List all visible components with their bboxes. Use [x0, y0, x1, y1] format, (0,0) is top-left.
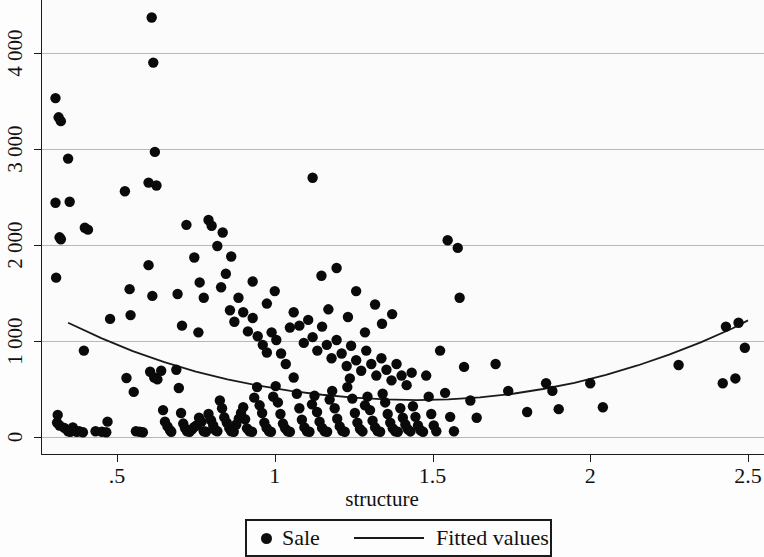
data-point	[740, 343, 750, 353]
data-point	[172, 289, 182, 299]
data-point	[271, 335, 281, 345]
data-point	[292, 389, 302, 399]
data-point	[63, 153, 73, 163]
data-point	[327, 386, 337, 396]
data-point	[276, 348, 286, 358]
legend-label-sale: Sale	[282, 525, 320, 551]
data-point	[370, 299, 380, 309]
data-point	[270, 286, 280, 296]
data-point	[226, 251, 236, 261]
data-point	[233, 293, 243, 303]
data-point	[156, 366, 166, 376]
data-point	[83, 224, 93, 234]
y-tick-mark	[34, 341, 42, 342]
data-point	[309, 391, 319, 401]
data-point	[440, 388, 450, 398]
data-point	[322, 427, 332, 437]
data-point	[196, 416, 206, 426]
data-point	[78, 427, 88, 437]
data-point	[217, 403, 227, 413]
data-point	[329, 403, 339, 413]
data-point	[243, 326, 253, 336]
data-point	[490, 359, 500, 369]
data-point	[346, 341, 356, 351]
data-point	[177, 320, 187, 330]
data-point	[733, 318, 743, 328]
data-point	[171, 365, 181, 375]
data-point	[307, 173, 317, 183]
data-point	[216, 282, 226, 292]
sale-marker-icon	[261, 533, 272, 544]
x-tick-label: 2.5	[734, 463, 762, 489]
data-point	[554, 404, 564, 414]
data-point	[303, 315, 313, 325]
y-axis-line	[41, 0, 42, 455]
sale-data-points	[50, 12, 750, 437]
data-point	[50, 93, 60, 103]
data-point	[158, 405, 168, 415]
data-point	[181, 220, 191, 230]
plot-canvas	[41, 0, 764, 455]
data-point	[371, 370, 381, 380]
data-point	[238, 307, 248, 317]
data-point	[718, 378, 728, 388]
x-axis-line	[41, 454, 764, 455]
data-point	[212, 426, 222, 436]
data-point	[64, 197, 74, 207]
x-tick-label: 1	[269, 463, 280, 489]
x-tick-mark	[433, 455, 434, 462]
data-point	[391, 359, 401, 369]
data-point	[151, 180, 161, 190]
data-point	[312, 345, 322, 355]
x-tick-label: 2	[585, 463, 596, 489]
data-point	[393, 427, 403, 437]
data-point	[347, 393, 357, 403]
data-point	[387, 309, 397, 319]
data-point	[454, 293, 464, 303]
data-point	[435, 345, 445, 355]
data-point	[275, 409, 285, 419]
data-point	[271, 381, 281, 391]
data-point	[105, 314, 115, 324]
data-point	[288, 307, 298, 317]
data-point	[449, 426, 459, 436]
y-tick-label-text: 0	[3, 432, 28, 443]
data-point	[247, 427, 257, 437]
y-tick-label-text: 1 000	[3, 317, 28, 364]
data-point	[396, 370, 406, 380]
x-tick-label: .5	[109, 463, 126, 489]
data-point	[362, 391, 372, 401]
data-point	[345, 373, 355, 383]
data-point	[408, 401, 418, 411]
data-point	[356, 366, 366, 376]
data-point	[547, 386, 557, 396]
data-point	[357, 426, 367, 436]
legend-entry-fitted-values: Fitted values	[354, 525, 549, 551]
data-point	[288, 372, 298, 382]
data-point	[229, 317, 239, 327]
scatter-plot-figure: 01 0002 0003 0004 000 .511.522.5 structu…	[0, 0, 764, 557]
data-point	[257, 408, 267, 418]
data-point	[102, 416, 112, 426]
plot-area	[41, 0, 764, 455]
data-point	[294, 320, 304, 330]
data-point	[193, 327, 203, 337]
data-point	[79, 345, 89, 355]
x-axis-title: structure	[0, 487, 764, 512]
data-point	[148, 57, 158, 67]
data-point	[331, 335, 341, 345]
data-point	[360, 327, 370, 337]
data-point	[421, 370, 431, 380]
data-point	[266, 427, 276, 437]
data-point	[351, 286, 361, 296]
data-point	[442, 235, 452, 245]
data-point	[217, 227, 227, 237]
data-point	[50, 198, 60, 208]
data-point	[395, 403, 405, 413]
data-point	[294, 403, 304, 413]
data-point	[316, 271, 326, 281]
y-tick-label-text: 3 000	[3, 125, 28, 172]
data-point	[503, 386, 513, 396]
data-point	[351, 355, 361, 365]
x-tick-mark	[590, 455, 591, 462]
